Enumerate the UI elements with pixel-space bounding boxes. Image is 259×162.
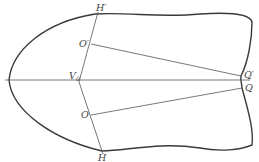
chord-O-prime-Q-prime <box>91 44 241 76</box>
chord-O-Q <box>91 88 242 115</box>
label-O-prime: O′ <box>79 38 90 49</box>
diagram-canvas: H′ O′ V0 O H Q′ Q <box>0 0 259 162</box>
label-H-prime: H′ <box>95 2 107 13</box>
label-H: H <box>97 152 107 162</box>
label-Q-prime: Q′ <box>244 69 255 80</box>
label-V0: V0 <box>69 70 80 82</box>
label-V0-sub: 0 <box>76 75 80 82</box>
label-Q: Q <box>245 82 253 93</box>
curved-outline <box>9 13 252 151</box>
label-O: O <box>81 109 89 120</box>
